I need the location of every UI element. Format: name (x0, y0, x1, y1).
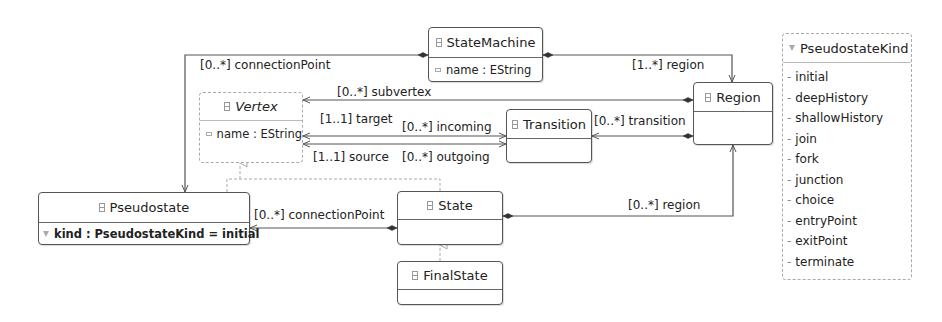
eclass-icon (512, 120, 518, 129)
class-state[interactable]: State (397, 191, 503, 245)
enum-literal[interactable]: -choice (783, 190, 911, 211)
attribute-row[interactable]: kind : PseudostateKind = initial (39, 223, 249, 245)
enum-literal[interactable]: -entryPoint (783, 211, 911, 232)
enum-literal[interactable]: -fork (783, 149, 911, 170)
label-vertex-incoming: [0..*] incoming (402, 120, 492, 134)
class-name: StateMachine (447, 35, 536, 50)
class-region[interactable]: Region (693, 82, 773, 145)
class-transition[interactable]: Transition (506, 109, 592, 163)
label-vertex-outgoing: [0..*] outgoing (402, 150, 490, 164)
eclass-icon (427, 201, 433, 210)
enum-name: PseudostateKind (800, 41, 908, 56)
eattribute-icon (206, 132, 212, 136)
enum-pseudostatekind[interactable]: PseudostateKind -initial -deepHistory -s… (782, 33, 912, 280)
class-header: Region (694, 83, 772, 112)
eenum-icon (789, 45, 795, 51)
label-state-connectionpoint: [0..*] connectionPoint (254, 208, 384, 222)
enum-literal[interactable]: -join (783, 129, 911, 150)
label-sm-region: [1..*] region (632, 58, 704, 72)
label-region-subvertex: [0..*] subvertex (337, 85, 431, 99)
class-header: Pseudostate (39, 193, 249, 223)
eclass-icon (99, 203, 105, 212)
enum-literal[interactable]: -deepHistory (783, 88, 911, 109)
attribute-text: name : EString (217, 127, 302, 141)
label-sm-connectionpoint: [0..*] connectionPoint (200, 58, 330, 72)
class-name: Region (716, 90, 761, 105)
enum-literal[interactable]: -shallowHistory (783, 108, 911, 129)
class-header: Transition (507, 110, 591, 139)
label-transition-target: [1..1] target (320, 112, 393, 126)
class-header: FinalState (398, 262, 502, 290)
attribute-text: kind : PseudostateKind = initial (54, 227, 259, 241)
label-transition-source: [1..1] source (313, 150, 389, 164)
class-name: Pseudostate (110, 200, 190, 215)
class-name: Transition (523, 117, 586, 132)
class-header: Vertex (200, 93, 302, 121)
label-state-region: [0..*] region (628, 198, 700, 212)
class-header: StateMachine (429, 28, 542, 58)
abstract-eclass-icon (224, 102, 230, 111)
class-name: FinalState (423, 268, 487, 283)
enum-literal[interactable]: -terminate (783, 252, 911, 273)
attribute-row[interactable]: name : EString (200, 121, 302, 147)
enum-literal[interactable]: -exitPoint (783, 231, 911, 252)
class-vertex[interactable]: Vertex name : EString (199, 92, 303, 163)
class-name: Vertex (235, 99, 277, 114)
enum-literal[interactable]: -junction (783, 170, 911, 191)
eattribute-icon (435, 68, 441, 72)
attribute-row[interactable]: name : EString (429, 58, 542, 82)
attribute-text: name : EString (446, 63, 531, 77)
label-region-transition: [0..*] transition (594, 114, 686, 128)
enum-literal[interactable]: -initial (783, 67, 911, 88)
class-name: State (438, 198, 472, 213)
class-pseudostate[interactable]: Pseudostate kind : PseudostateKind = ini… (38, 192, 250, 245)
class-statemachine[interactable]: StateMachine name : EString (428, 27, 543, 82)
eclass-icon (412, 271, 418, 280)
eclass-icon (436, 38, 442, 47)
enum-header: PseudostateKind (783, 34, 911, 63)
enum-attribute-icon (43, 231, 49, 237)
eclass-icon (705, 93, 711, 102)
enum-literals: -initial -deepHistory -shallowHistory -j… (783, 63, 911, 272)
class-finalstate[interactable]: FinalState (397, 261, 503, 305)
uml-class-diagram: StateMachine name : EString Vertex name … (0, 0, 942, 322)
class-header: State (398, 192, 502, 220)
